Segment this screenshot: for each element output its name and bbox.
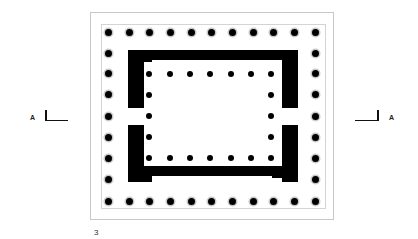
outer-column	[312, 91, 319, 98]
outer-column	[105, 91, 112, 98]
inner-column	[146, 92, 152, 98]
inner-column	[228, 155, 234, 161]
inner-column	[187, 71, 193, 77]
inner-column	[167, 71, 173, 77]
outer-column	[188, 29, 195, 36]
inner-column	[248, 71, 254, 77]
outer-column	[312, 50, 319, 57]
outer-column	[250, 198, 257, 205]
outer-column	[270, 198, 277, 205]
outer-column	[105, 70, 112, 77]
inner-column	[146, 113, 152, 119]
cella-wall-right-upper	[282, 50, 298, 108]
outer-column	[270, 29, 277, 36]
outer-column	[146, 29, 153, 36]
cella-wall-bottom-step-right	[272, 170, 298, 178]
inner-column	[207, 71, 213, 77]
outer-column	[208, 29, 215, 36]
section-line-right	[355, 120, 378, 121]
section-label-left: A	[30, 114, 35, 121]
section-line-left	[45, 120, 68, 121]
inner-column	[248, 155, 254, 161]
outer-column	[105, 29, 112, 36]
outer-column	[105, 50, 112, 57]
cella-wall-bottom-step-left	[134, 170, 152, 182]
outer-column	[229, 29, 236, 36]
cella-wall-left-upper	[128, 50, 144, 108]
outer-column	[126, 29, 133, 36]
inner-column	[146, 134, 152, 140]
outer-column	[312, 113, 319, 120]
outer-column	[105, 113, 112, 120]
section-tick-right	[377, 110, 379, 121]
inner-column	[187, 155, 193, 161]
inner-column	[268, 155, 274, 161]
outer-column	[312, 155, 319, 162]
outer-column	[167, 29, 174, 36]
outer-column	[105, 176, 112, 183]
outer-column	[105, 155, 112, 162]
inner-column	[207, 155, 213, 161]
outer-column	[250, 29, 257, 36]
outer-column	[229, 198, 236, 205]
inner-column	[167, 155, 173, 161]
outer-column	[126, 198, 133, 205]
inner-column	[228, 71, 234, 77]
inner-column	[268, 113, 274, 119]
inner-column	[268, 134, 274, 140]
inner-column	[146, 71, 152, 77]
outer-column	[312, 70, 319, 77]
inner-column	[146, 155, 152, 161]
section-label-right: A	[389, 114, 394, 121]
outer-column	[312, 176, 319, 183]
outer-column	[312, 134, 319, 141]
outer-column	[291, 198, 298, 205]
inner-column	[268, 92, 274, 98]
outer-column	[146, 198, 153, 205]
outer-column	[208, 198, 215, 205]
outer-column	[291, 29, 298, 36]
inner-column	[268, 71, 274, 77]
outer-column	[312, 198, 319, 205]
outer-column	[188, 198, 195, 205]
outer-column	[167, 198, 174, 205]
outer-column	[105, 198, 112, 205]
outer-column	[312, 29, 319, 36]
outer-column	[105, 134, 112, 141]
figure-number: 3	[94, 228, 98, 237]
